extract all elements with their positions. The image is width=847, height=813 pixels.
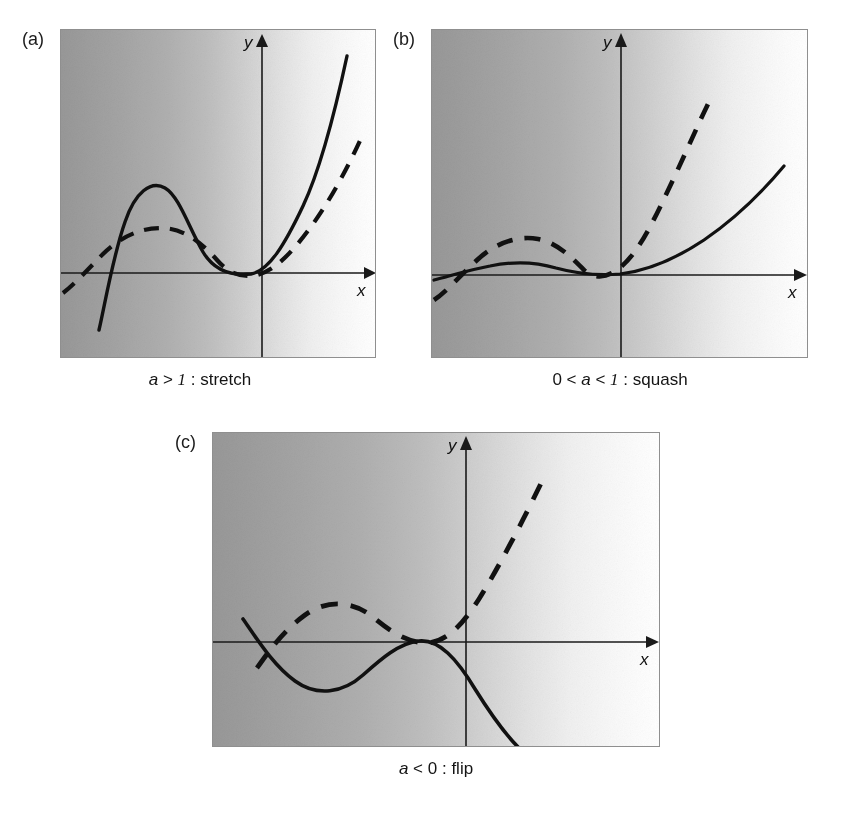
panel-b-x-axis-label: x [787, 283, 797, 302]
panel-c-label: (c) [175, 432, 196, 453]
panel-c: (c) [170, 425, 690, 813]
panel-c-caption-relation: < [408, 759, 427, 778]
panel-b-label: (b) [393, 29, 415, 50]
panel-b-y-axis-label: y [602, 33, 613, 52]
panel-c-y-axis-label: y [447, 436, 458, 455]
panel-b-caption: 0 < a < 1 : squash [400, 370, 840, 390]
panel-c-caption-word: flip [451, 759, 473, 778]
panel-c-solid-curve [243, 619, 519, 747]
panel-c-caption: a < 0 : flip [212, 759, 660, 779]
panel-c-caption-value: 0 [428, 759, 437, 778]
panel-a: (a) [0, 0, 400, 400]
panel-b-y-axis [615, 33, 627, 358]
panel-a-caption-value: 1 [178, 370, 187, 389]
panel-c-dashed-curve [257, 475, 545, 668]
panel-a-caption: a > 1 : stretch [0, 370, 400, 390]
panel-b-solid-curve [434, 166, 784, 280]
panel-b-caption-relation-left: 0 < [552, 370, 581, 389]
panel-c-frame: y x [212, 432, 660, 747]
panel-c-caption-variable: a [399, 759, 408, 778]
panel-a-y-axis [256, 34, 268, 358]
panel-b-caption-variable: a [581, 370, 590, 389]
panel-b: (b) [400, 0, 847, 400]
panel-b-caption-value: 1 [610, 370, 619, 389]
panel-b-plot: y x [432, 30, 808, 358]
panel-a-plot: y x [61, 30, 376, 358]
panel-a-x-axis-label: x [356, 281, 366, 300]
panel-c-plot: y x [213, 433, 660, 747]
panel-b-caption-relation-right: < [591, 370, 610, 389]
panel-a-dashed-curve [63, 134, 363, 293]
panel-c-caption-separator: : [437, 759, 451, 778]
panel-a-solid-curve [99, 56, 347, 330]
panel-c-x-axis-label: x [639, 650, 649, 669]
panel-c-y-axis [460, 436, 472, 747]
figure-root: (a) [0, 0, 847, 813]
panel-a-y-axis-label: y [243, 33, 254, 52]
panel-a-frame: y x [60, 29, 376, 358]
panel-a-caption-relation: > [158, 370, 177, 389]
panel-a-caption-separator: : [186, 370, 200, 389]
panel-a-caption-word: stretch [200, 370, 251, 389]
panel-a-caption-variable: a [149, 370, 158, 389]
panel-b-caption-word: squash [633, 370, 688, 389]
panel-b-frame: y x [431, 29, 808, 358]
panel-b-caption-separator: : [619, 370, 633, 389]
panel-a-label: (a) [22, 29, 44, 50]
